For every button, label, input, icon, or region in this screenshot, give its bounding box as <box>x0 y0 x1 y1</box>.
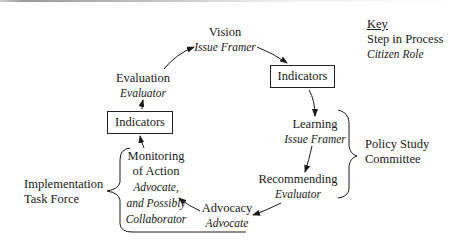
monitoring-role-line2: and Possibly <box>126 196 185 211</box>
policy-committee-line1: Policy Study <box>365 137 429 152</box>
implementation-task-force-line1: Implementation <box>24 177 103 192</box>
vision-role: Issue Framer <box>194 40 256 55</box>
arrow-evaluation-to-vision <box>164 47 194 69</box>
monitoring-step-line1: Monitoring <box>128 149 185 164</box>
advocacy-step: Advocacy <box>202 201 253 216</box>
key-title: Key <box>367 17 388 32</box>
monitoring-step-line2: of Action <box>133 164 180 179</box>
arrow-monitoring-to-indicators <box>140 136 144 148</box>
monitoring-role-line1: Advocate, <box>133 180 179 195</box>
evaluation-step: Evaluation <box>116 71 170 86</box>
arrow-indicators-to-evaluation <box>142 100 143 109</box>
indicators-box-right: Indicators <box>270 65 335 88</box>
arrow-vision-to-indicators <box>257 47 287 63</box>
indicators-box-left: Indicators <box>107 111 173 134</box>
brace-policy-committee <box>338 110 357 198</box>
arrow-learning-to-recommending <box>305 146 312 172</box>
evaluation-role: Evaluator <box>120 86 166 101</box>
implementation-task-force-line2: Task Force <box>24 192 79 207</box>
recommending-step: Recommending <box>258 172 337 187</box>
arrow-indicators-to-learning <box>309 90 315 116</box>
recommending-role: Evaluator <box>275 187 321 202</box>
key-role-label: Citizen Role <box>367 47 424 62</box>
vision-step: Vision <box>209 25 242 40</box>
advocacy-role: Advocate <box>206 216 249 231</box>
arrow-recommending-to-advocacy <box>253 203 281 215</box>
policy-committee-line2: Committee <box>365 152 421 167</box>
key-step-label: Step in Process <box>367 32 443 47</box>
monitoring-role-line3: Collaborator <box>126 212 187 227</box>
learning-step: Learning <box>292 117 337 132</box>
learning-role: Issue Framer <box>284 132 346 147</box>
